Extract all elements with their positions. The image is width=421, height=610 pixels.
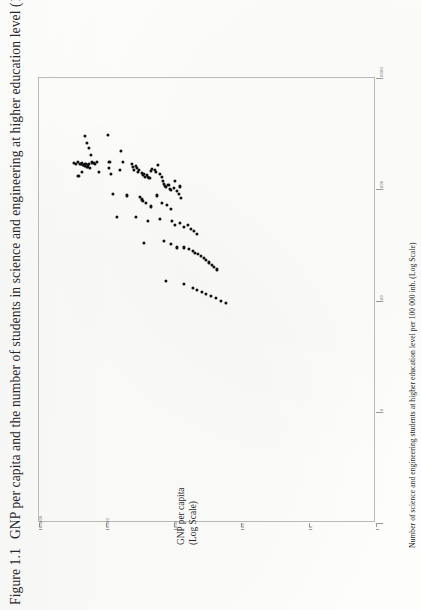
data-point	[179, 185, 182, 188]
data-point	[171, 219, 174, 222]
data-point	[155, 194, 158, 197]
data-point	[125, 194, 128, 197]
data-point	[122, 160, 125, 163]
x-axis-tick-label: 10	[307, 526, 312, 531]
data-point	[160, 201, 163, 204]
data-point	[142, 241, 145, 244]
data-point	[85, 142, 88, 145]
data-point	[148, 177, 151, 180]
data-point	[107, 166, 110, 169]
data-point	[183, 283, 186, 286]
data-point	[108, 160, 111, 163]
data-point	[174, 223, 177, 226]
data-point	[174, 180, 177, 183]
data-point	[110, 172, 113, 175]
data-point	[195, 232, 198, 235]
data-point	[210, 294, 213, 297]
data-point	[187, 248, 190, 251]
data-point	[178, 221, 181, 224]
x-axis-tick-label: 100	[240, 523, 245, 531]
data-point	[154, 171, 157, 174]
data-point	[115, 216, 118, 219]
y-axis-tick-label: 10000	[379, 67, 384, 79]
data-point	[224, 301, 227, 304]
data-point	[95, 160, 98, 163]
data-point	[88, 146, 91, 149]
data-point	[205, 292, 208, 295]
x-axis-title-line2: (Log Scale)	[188, 488, 200, 545]
data-point	[157, 163, 160, 166]
data-point	[175, 246, 178, 249]
data-point	[160, 175, 163, 178]
data-point	[169, 243, 172, 246]
data-point	[195, 288, 198, 291]
plot-frame	[38, 77, 375, 522]
data-point	[120, 150, 123, 153]
data-point	[214, 297, 217, 300]
data-point	[219, 299, 222, 302]
data-point	[97, 170, 100, 173]
x-axis-tick-label: 100000	[38, 516, 43, 531]
data-point	[169, 208, 172, 211]
y-axis-tick-label: 1000	[379, 181, 384, 191]
scatter-series	[39, 78, 374, 521]
data-point	[183, 225, 186, 228]
data-point	[166, 204, 169, 207]
data-point	[180, 196, 183, 199]
data-point	[167, 183, 170, 186]
figure-caption: Figure 1.1 GNP per capita and the number…	[5, 0, 27, 605]
x-axis-tick-label: 10000	[105, 518, 110, 530]
data-point	[135, 216, 138, 219]
y-axis-tick-label: 10	[379, 408, 384, 413]
y-axis-title: Number of science and engineering studen…	[408, 242, 417, 548]
data-point	[215, 268, 218, 271]
scanned-page: Figure 1.1 GNP per capita and the number…	[0, 0, 421, 610]
data-point	[80, 171, 83, 174]
data-point	[83, 135, 86, 138]
data-point	[147, 219, 150, 222]
data-point	[165, 279, 168, 282]
figure-number: Figure 1.1	[8, 548, 24, 605]
y-axis-tick-label: 1	[379, 522, 384, 525]
data-point	[144, 201, 147, 204]
data-point	[201, 290, 204, 293]
figure-caption-text: GNP per capita and the number of student…	[8, 0, 24, 539]
data-point	[149, 205, 152, 208]
x-axis-title-line1: GNP per capita	[176, 488, 188, 545]
data-point	[88, 166, 91, 169]
data-point	[75, 163, 78, 166]
y-axis-tick-label: 100	[379, 295, 384, 303]
data-point	[77, 174, 80, 177]
x-axis-tick-label: 1	[375, 528, 380, 531]
data-point	[89, 153, 92, 156]
data-point	[186, 223, 189, 226]
x-axis-title: GNP per capita (Log Scale)	[176, 488, 199, 545]
data-point	[162, 240, 165, 243]
data-point	[183, 246, 186, 249]
data-point	[106, 134, 109, 137]
data-point	[158, 217, 161, 220]
data-point	[118, 168, 121, 171]
data-point	[111, 193, 114, 196]
